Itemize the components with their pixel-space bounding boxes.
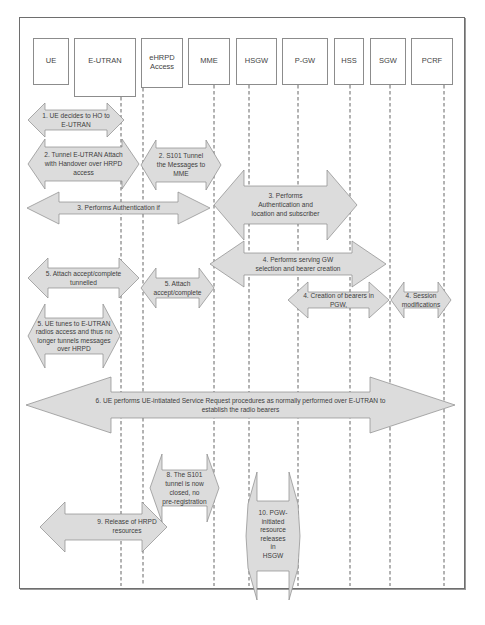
sequence-diagram: 1. UE decides to HO toE-UTRAN2. Tunnel E… <box>0 0 485 625</box>
step-2a-label: 2. Tunnel E-UTRAN Attach <box>44 151 123 158</box>
step-4b-label: 4. Creation of bearers in <box>303 292 374 299</box>
step-9-label: resources <box>113 527 143 534</box>
step-4a-label: selection and bearer creation <box>255 265 340 272</box>
step-5c-label: over HRPD <box>57 345 91 352</box>
step-3b-label: Authentication and <box>258 201 313 208</box>
step-3b-label: 3. Performs <box>268 192 303 199</box>
step-10-label: resource <box>260 526 286 533</box>
step-8-label: 8. The S101 <box>167 471 203 478</box>
step-10-label: 10. PGW- <box>259 509 288 516</box>
step-4b-label: PGW, <box>330 301 347 308</box>
step-10-label: releases <box>261 535 287 542</box>
step-1-label: 1. UE decides to HO to <box>42 112 110 119</box>
step-2a-label: access <box>73 169 94 176</box>
step-2b-label: 2. S101 Tunnel <box>159 152 204 159</box>
step-2b-label: MME <box>173 170 189 177</box>
step-5a-label: 5. Attach accept/complete <box>46 270 122 278</box>
step-1-label: E-UTRAN <box>61 121 91 128</box>
step-4c-label: modifications <box>402 301 441 308</box>
step-9-label: 9. Release of HRPD <box>97 518 157 525</box>
step-10-label: initiated <box>262 518 285 525</box>
step-10-label: in <box>270 543 275 550</box>
step-8-label: closed, no <box>169 489 199 496</box>
step-5b-label: accept/complete <box>153 289 201 297</box>
step-4c-label: 4. Session <box>406 292 437 299</box>
step-4a-label: 4. Performs serving GW <box>263 256 334 264</box>
step-9-arrow <box>40 502 167 552</box>
step-2a-label: with Handover over HRPD <box>44 160 123 167</box>
step-3a-label: 3. Performs Authentication if <box>77 204 160 211</box>
step-6-label: 6. UE performs UE-intiatated Service Req… <box>96 397 386 405</box>
step-5c-label: radios access and thus no <box>36 328 113 335</box>
step-5b-label: 5. Attach <box>165 280 191 287</box>
step-2b-label: the Messages to <box>157 161 206 169</box>
step-5c-label: 5. UE tunes to E-UTRAN <box>38 320 111 327</box>
step-10-label: HSGW <box>263 552 284 559</box>
step-8-label: pre-registration <box>162 498 207 506</box>
step-8-label: tunnel is now <box>165 480 204 487</box>
step-5c-label: longer tunnels messages <box>37 337 111 345</box>
step-arrows: 1. UE decides to HO toE-UTRAN2. Tunnel E… <box>26 103 455 600</box>
step-3b-label: location and subscriber <box>252 210 321 217</box>
step-5a-label: tunnelled <box>70 279 97 286</box>
step-6-label: establish the radio bearers <box>202 406 280 413</box>
